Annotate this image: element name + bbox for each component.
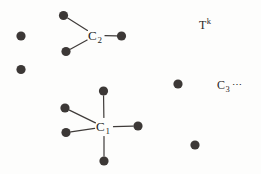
cluster-label-subscript: 1 <box>105 126 110 136</box>
label-t-k: Tk <box>199 17 211 31</box>
cluster-label-c2: C2 <box>88 29 102 45</box>
c1-neighbor-right <box>133 121 142 130</box>
c1-neighbor-upper-left <box>60 103 69 112</box>
label-c-3: C3⋯ <box>217 79 242 93</box>
dot-layer <box>16 11 199 166</box>
graph-figure: C2C1TkC3⋯ <box>0 0 261 174</box>
edge-c1-to-c1-neighbor-lower-left <box>71 128 95 131</box>
c1-neighbor-lower-left <box>61 128 70 137</box>
cluster-label-base: C <box>88 28 97 43</box>
annotation-base: C <box>217 78 225 92</box>
annotation-ellipsis: ⋯ <box>230 79 243 90</box>
isolated-dot-left-upper <box>16 31 25 40</box>
isolated-dot-right-lower <box>190 140 199 149</box>
cluster-label-c1: C1 <box>96 120 110 136</box>
c2-neighbor-bottom-left <box>61 47 70 56</box>
edge-c1-to-c1-neighbor-right <box>113 126 133 127</box>
c2-neighbor-top-left <box>59 11 68 20</box>
c1-neighbor-top <box>99 86 108 95</box>
isolated-dot-left-lower <box>16 65 25 74</box>
edge-c2-to-c2-neighbor-top-left <box>68 18 88 30</box>
edge-c1-to-c1-neighbor-upper-left <box>69 110 95 123</box>
cluster-label-base: C <box>96 119 105 134</box>
c1-neighbor-bottom <box>99 156 108 165</box>
isolated-dot-right-upper <box>173 79 182 88</box>
annotation-superscript: k <box>206 16 211 26</box>
edge-c2-to-c2-neighbor-bottom-left <box>70 40 87 49</box>
c2-neighbor-right <box>117 31 126 40</box>
cluster-label-subscript: 2 <box>97 35 102 45</box>
